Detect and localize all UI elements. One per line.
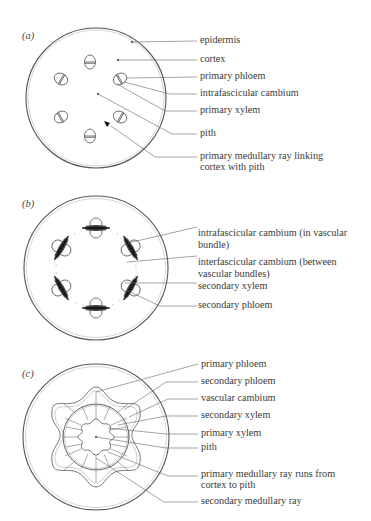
panel-a-tag: (a)	[22, 30, 34, 41]
leader-lines-a	[98, 41, 197, 157]
cortex-inner-outline	[28, 30, 164, 166]
label-primary-medullary-ray-c: primary medullary ray runs from	[201, 468, 335, 480]
panel-c-stem	[23, 364, 198, 510]
label-secondary-medullary-ray: secondary medullary ray	[201, 495, 302, 507]
arrow-icon	[104, 121, 110, 127]
label-primary-medullary-ray-line2: cortex with pith	[200, 161, 265, 173]
panel-b-stem	[24, 196, 197, 340]
leader-lines-b	[125, 227, 197, 306]
panel-a-stem	[26, 28, 197, 168]
label-vascular-cambium: vascular cambium	[201, 392, 275, 404]
label-intrafascicular-cambium: intrafascicular cambium	[200, 87, 299, 99]
label-primary-medullary-ray-c-line2: cortex to pith	[201, 479, 255, 491]
label-secondary-xylem-c: secondary xylem	[201, 409, 270, 421]
label-pith: pith	[200, 127, 216, 139]
panel-b-tag: (b)	[22, 198, 34, 209]
label-primary-xylem-c: primary xylem	[201, 427, 261, 439]
label-intrafascicular-cambium-b: intrafascicular cambium (in vascular	[198, 227, 347, 239]
vascular-bundles	[52, 55, 129, 143]
label-secondary-xylem-b: secondary xylem	[198, 280, 267, 292]
label-primary-medullary-ray: primary medullary ray linking	[200, 150, 323, 162]
label-cortex: cortex	[200, 53, 225, 65]
panel-c-tag: (c)	[22, 368, 34, 379]
label-primary-phloem-c: primary phloem	[201, 358, 266, 370]
epidermis-outline	[26, 28, 166, 168]
label-primary-xylem: primary xylem	[200, 104, 260, 116]
label-intrafascicular-cambium-b-line2: bundle)	[198, 239, 229, 251]
label-interfascicular-cambium-line2: vascular bundles)	[198, 268, 270, 280]
label-secondary-phloem-b: secondary phloem	[198, 299, 272, 311]
label-interfascicular-cambium: interfascicular cambium (between	[198, 256, 337, 268]
label-primary-phloem: primary phloem	[200, 70, 265, 82]
label-secondary-phloem-c: secondary phloem	[201, 375, 275, 387]
label-epidermis: epidermis	[200, 34, 240, 46]
secondary-bundles	[46, 218, 147, 318]
label-pith-c: pith	[201, 441, 217, 453]
